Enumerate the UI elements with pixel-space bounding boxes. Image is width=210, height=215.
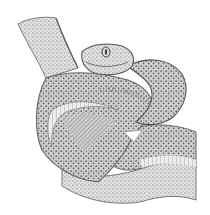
snake-illustration	[0, 0, 210, 215]
snake-head	[82, 44, 134, 75]
branch-tail	[18, 17, 78, 78]
